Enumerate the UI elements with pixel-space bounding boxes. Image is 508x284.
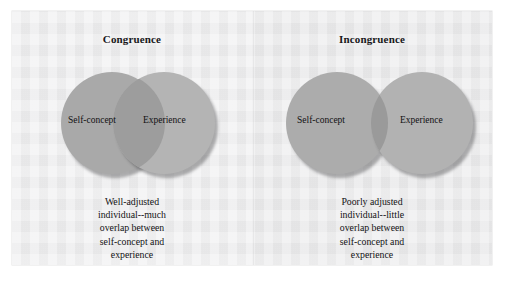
- caption-line: Poorly adjusted: [298, 195, 446, 208]
- caption-congruence: Well-adjusted individual--much overlap b…: [58, 195, 206, 261]
- caption-line: experience: [58, 248, 206, 261]
- caption-line: self-concept and: [298, 235, 446, 248]
- panel-incongruence: Incongruence Self-concept Experience Poo…: [252, 11, 492, 265]
- caption-line: individual--much: [58, 208, 206, 221]
- circle-label-self-concept: Self-concept: [297, 115, 345, 125]
- panel-title-congruence: Congruence: [12, 33, 252, 45]
- circle-label-experience: Experience: [400, 115, 443, 125]
- caption-line: individual--little: [298, 208, 446, 221]
- caption-line: self-concept and: [58, 235, 206, 248]
- caption-line: experience: [298, 248, 446, 261]
- venn-diagram-incongruence: Self-concept Experience: [252, 69, 492, 181]
- circle-label-self-concept: Self-concept: [68, 115, 116, 125]
- panel-title-incongruence: Incongruence: [252, 33, 492, 45]
- panel-congruence: Congruence Self-concept Experience Well-…: [12, 11, 252, 265]
- figure-page: Congruence Self-concept Experience Well-…: [0, 0, 508, 284]
- caption-line: Well-adjusted: [58, 195, 206, 208]
- caption-incongruence: Poorly adjusted individual--little overl…: [298, 195, 446, 261]
- circle-label-experience: Experience: [143, 115, 186, 125]
- figure-plate: Congruence Self-concept Experience Well-…: [12, 11, 492, 265]
- caption-line: overlap between: [298, 221, 446, 234]
- caption-line: overlap between: [58, 221, 206, 234]
- venn-diagram-congruence: Self-concept Experience: [12, 69, 252, 181]
